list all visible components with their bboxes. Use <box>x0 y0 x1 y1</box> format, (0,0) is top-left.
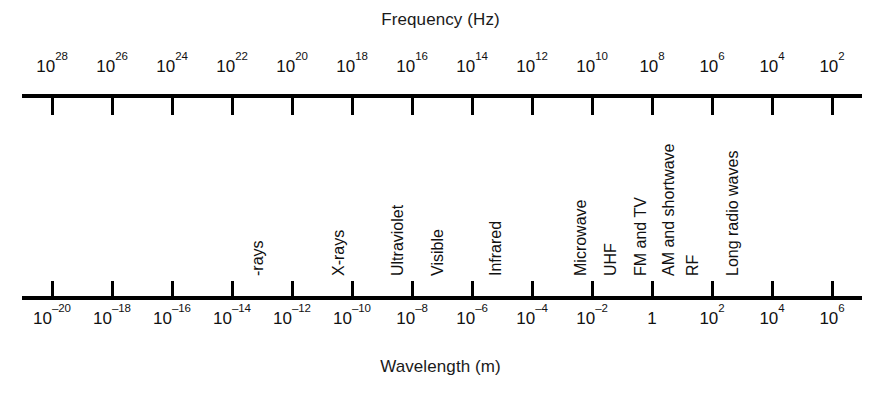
wavelength-axis-tick-label: 10–18 <box>93 310 131 327</box>
frequency-axis-tick-label: 104 <box>759 58 784 75</box>
wavelength-axis-tick-label: 10–10 <box>333 310 371 327</box>
frequency-axis-tick-label: 108 <box>639 58 664 75</box>
band-label-uhf: UHF <box>603 243 619 276</box>
frequency-axis-tick-label: 1028 <box>36 58 68 75</box>
electromagnetic-spectrum-figure: Frequency (Hz) 1028102610241022102010181… <box>0 0 881 394</box>
wavelength-axis-tick-label: 1 <box>647 310 656 327</box>
wavelength-axis-tick <box>711 281 714 297</box>
frequency-axis-tick-label: 1022 <box>216 58 248 75</box>
wavelength-axis-tick-label: 10–14 <box>213 310 251 327</box>
frequency-axis-tick-label: 1018 <box>336 58 368 75</box>
wavelength-axis-title: Wavelength (m) <box>0 357 881 377</box>
wavelength-axis-tick <box>591 281 594 297</box>
frequency-axis-tick <box>231 97 234 115</box>
wavelength-axis-tick <box>531 281 534 297</box>
band-label-ultraviolet: Ultraviolet <box>390 205 406 276</box>
band-label-fm-and-tv: FM and TV <box>633 197 649 276</box>
frequency-axis-tick <box>351 97 354 115</box>
band-label-gamma-rays: -rays <box>250 240 266 276</box>
band-label-x-rays: X-rays <box>331 230 347 276</box>
wavelength-axis-tick <box>471 281 474 297</box>
wavelength-axis-tick-label: 10–8 <box>396 310 428 327</box>
frequency-axis-tick <box>831 97 834 115</box>
frequency-axis-tick <box>411 97 414 115</box>
frequency-axis-tick <box>51 97 54 115</box>
wavelength-axis-tick <box>291 281 294 297</box>
wavelength-axis-tick-label: 10–2 <box>576 310 608 327</box>
wavelength-axis-tick <box>231 281 234 297</box>
wavelength-axis-tick-label: 10–4 <box>516 310 548 327</box>
frequency-axis-tick-label: 1024 <box>156 58 188 75</box>
frequency-axis-tick-label: 1014 <box>456 58 488 75</box>
wavelength-axis-tick <box>351 281 354 297</box>
frequency-axis-tick-label: 1016 <box>396 58 428 75</box>
frequency-axis-tick-label: 106 <box>699 58 724 75</box>
frequency-axis-tick-label: 1026 <box>96 58 128 75</box>
band-label-am-and-shortwave: AM and shortwave <box>661 143 677 276</box>
band-label-microwave: Microwave <box>573 200 589 276</box>
band-label-long-radio-waves: Long radio waves <box>725 151 741 276</box>
wavelength-axis-tick <box>771 281 774 297</box>
frequency-axis-title: Frequency (Hz) <box>0 10 881 30</box>
wavelength-axis-tick-label: 10–12 <box>273 310 311 327</box>
wavelength-axis-tick-label: 10–16 <box>153 310 191 327</box>
frequency-axis-tick-label: 102 <box>819 58 844 75</box>
frequency-axis-tick <box>771 97 774 115</box>
frequency-axis-tick <box>711 97 714 115</box>
bottom-axis-line <box>22 296 862 300</box>
frequency-axis-tick <box>531 97 534 115</box>
frequency-axis-tick-label: 1020 <box>276 58 308 75</box>
band-label-rf: RF <box>685 255 701 276</box>
band-label-visible: Visible <box>430 229 446 276</box>
frequency-axis-tick <box>111 97 114 115</box>
wavelength-axis-tick <box>171 281 174 297</box>
frequency-axis-tick <box>651 97 654 115</box>
frequency-axis-tick-label: 1010 <box>576 58 608 75</box>
frequency-axis-tick <box>591 97 594 115</box>
wavelength-axis-tick <box>51 281 54 297</box>
wavelength-axis-tick-label: 10–6 <box>456 310 488 327</box>
frequency-axis-tick <box>291 97 294 115</box>
wavelength-axis-tick-label: 104 <box>759 310 784 327</box>
wavelength-axis-tick <box>411 281 414 297</box>
wavelength-axis-tick-label: 106 <box>819 310 844 327</box>
frequency-axis-tick <box>471 97 474 115</box>
top-axis-line <box>22 94 862 98</box>
band-label-infrared: Infrared <box>488 221 504 276</box>
frequency-axis-tick <box>171 97 174 115</box>
wavelength-axis-tick-label: 102 <box>699 310 724 327</box>
wavelength-axis-tick-label: 10–20 <box>33 310 71 327</box>
wavelength-axis-tick <box>651 281 654 297</box>
wavelength-axis-tick <box>111 281 114 297</box>
wavelength-axis-tick <box>831 281 834 297</box>
frequency-axis-tick-label: 1012 <box>516 58 548 75</box>
